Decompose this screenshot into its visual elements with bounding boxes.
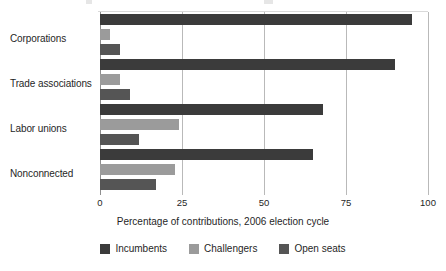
category-label-trade-associations: Trade associations	[0, 78, 92, 89]
x-tick-label-100: 100	[420, 197, 436, 208]
category-label-labor-unions: Labor unions	[0, 123, 92, 134]
bar-nonconnected-challengers	[100, 164, 175, 175]
x-tick-label-75: 75	[341, 197, 352, 208]
bar-group-labor-unions	[100, 102, 428, 147]
legend-label-incumbents: Incumbents	[115, 243, 167, 254]
bar-labor-unions-incumbents	[100, 104, 323, 115]
bar-group-corporations	[100, 12, 428, 57]
plot-area	[100, 12, 428, 195]
bar-trade-associations-challengers	[100, 74, 120, 85]
legend-item-incumbents: Incumbents	[100, 243, 167, 254]
x-tick-label-50: 50	[259, 197, 270, 208]
legend-swatch-incumbents-icon	[100, 244, 110, 254]
bar-corporations-challengers	[100, 29, 110, 40]
bar-corporations-incumbents	[100, 14, 412, 25]
bar-nonconnected-open-seats	[100, 179, 156, 190]
legend-swatch-open-seats-icon	[279, 244, 289, 254]
legend-item-challengers: Challengers	[189, 243, 257, 254]
legend-item-open-seats: Open seats	[279, 243, 345, 254]
bar-chart-figure: Corporations Trade associations Labor un…	[0, 0, 446, 271]
category-label-corporations: Corporations	[0, 33, 92, 44]
bar-labor-unions-open-seats	[100, 134, 139, 145]
cropped-title-remnant-right	[264, 0, 273, 4]
cropped-title-remnant-left	[86, 0, 92, 4]
x-tick-label-25: 25	[177, 197, 188, 208]
x-tick-label-0: 0	[97, 197, 102, 208]
bar-trade-associations-open-seats	[100, 89, 130, 100]
chart-legend: Incumbents Challengers Open seats	[0, 243, 446, 254]
bar-corporations-open-seats	[100, 44, 120, 55]
legend-label-open-seats: Open seats	[294, 243, 345, 254]
bar-group-nonconnected	[100, 147, 428, 192]
bar-labor-unions-challengers	[100, 119, 179, 130]
gridline-100	[428, 12, 429, 195]
x-axis-title: Percentage of contributions, 2006 electi…	[0, 216, 446, 227]
category-label-nonconnected: Nonconnected	[0, 168, 92, 179]
bar-nonconnected-incumbents	[100, 149, 313, 160]
legend-label-challengers: Challengers	[204, 243, 257, 254]
legend-swatch-challengers-icon	[189, 244, 199, 254]
bar-group-trade-associations	[100, 57, 428, 102]
bar-trade-associations-incumbents	[100, 59, 395, 70]
